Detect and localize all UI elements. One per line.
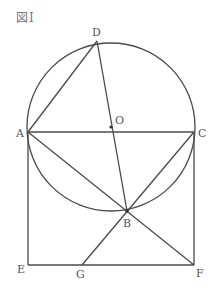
- label-e: E: [17, 263, 25, 276]
- label-g: G: [76, 268, 85, 281]
- label-o: O: [115, 114, 124, 127]
- geometry-diagram: D A C O B E G F: [0, 0, 216, 288]
- label-d: D: [92, 26, 101, 39]
- segment-cg: [82, 132, 194, 265]
- point-o-dot: [109, 125, 112, 128]
- label-c: C: [198, 127, 206, 140]
- label-b: B: [123, 217, 131, 230]
- segment-af: [28, 132, 194, 265]
- label-a: A: [15, 127, 25, 140]
- point-b-dot: [125, 209, 129, 213]
- segment-ad: [28, 41, 97, 132]
- label-f: F: [196, 267, 204, 280]
